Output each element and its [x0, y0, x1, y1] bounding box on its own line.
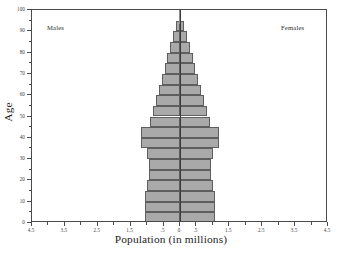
x-tick-minor	[311, 222, 312, 225]
x-tick-major	[130, 222, 131, 226]
bar-males-10-15	[145, 191, 180, 202]
bar-females-0-5	[180, 212, 215, 221]
y-tick-minor	[29, 62, 32, 63]
x-tick-major	[327, 222, 328, 226]
y-tick-major	[27, 73, 31, 74]
y-tick-label: 90	[5, 27, 25, 33]
bar-males-40-45	[141, 127, 180, 138]
y-tick-minor	[29, 169, 32, 170]
population-pyramid-chart: 4.53.52.51.5.50.51.52.53.54.5 0102030405…	[0, 0, 342, 253]
y-tick-minor	[29, 84, 32, 85]
bar-males-5-10	[145, 202, 180, 213]
y-tick-label: 10	[5, 198, 25, 204]
y-tick-minor	[29, 105, 32, 106]
y-tick-label: 30	[5, 155, 25, 161]
bar-males-50-55	[153, 106, 180, 117]
bar-females-65-70	[180, 74, 198, 85]
bar-males-55-60	[156, 95, 180, 106]
x-tick-major	[179, 222, 180, 226]
bar-males-45-50	[150, 117, 180, 128]
bar-females-80-85	[180, 42, 190, 53]
y-tick-major	[27, 116, 31, 117]
x-tick-major	[163, 222, 164, 226]
bar-females-70-75	[180, 63, 195, 74]
x-tick-major	[195, 222, 196, 226]
y-tick-label: 0	[5, 219, 25, 225]
y-tick-label: 40	[5, 134, 25, 140]
bar-females-20-25	[180, 170, 211, 181]
bar-females-75-80	[180, 53, 193, 64]
bar-males-60-65	[159, 85, 180, 96]
bar-females-25-30	[180, 159, 211, 170]
bar-females-35-40	[180, 138, 219, 149]
x-tick-minor	[80, 222, 81, 225]
bar-males-0-5	[145, 212, 180, 221]
y-tick-label: 100	[5, 6, 25, 12]
males-legend-label: Males	[47, 24, 64, 31]
y-tick-major	[27, 179, 31, 180]
bar-females-45-50	[180, 117, 210, 128]
x-axis-title: Population (in millions)	[0, 233, 342, 245]
plot-area	[31, 9, 327, 222]
y-tick-label: 80	[5, 49, 25, 55]
bar-males-80-85	[170, 42, 180, 53]
females-legend-label: Females	[281, 24, 304, 31]
bar-females-15-20	[180, 180, 213, 191]
y-tick-label: 70	[5, 70, 25, 76]
bar-males-75-80	[167, 53, 180, 64]
bar-females-55-60	[180, 95, 204, 106]
y-tick-major	[27, 137, 31, 138]
center-axis-line	[180, 10, 181, 221]
x-tick-minor	[245, 222, 246, 225]
bar-females-40-45	[180, 127, 219, 138]
bar-females-30-35	[180, 148, 213, 159]
x-tick-major	[228, 222, 229, 226]
y-axis-title: Age	[2, 92, 14, 132]
bar-males-65-70	[162, 74, 180, 85]
bar-males-85-90	[173, 31, 180, 42]
y-tick-minor	[29, 211, 32, 212]
y-tick-major	[27, 158, 31, 159]
bar-females-60-65	[180, 85, 201, 96]
x-tick-minor	[47, 222, 48, 225]
x-tick-major	[97, 222, 98, 226]
x-tick-minor	[146, 222, 147, 225]
bar-females-5-10	[180, 202, 215, 213]
x-tick-major	[64, 222, 65, 226]
bar-males-30-35	[147, 148, 180, 159]
y-tick-minor	[29, 126, 32, 127]
x-tick-minor	[278, 222, 279, 225]
plot-inner	[32, 10, 326, 221]
bar-males-35-40	[141, 138, 180, 149]
y-tick-label: 20	[5, 176, 25, 182]
y-tick-major	[27, 201, 31, 202]
bar-males-25-30	[149, 159, 180, 170]
x-tick-major	[261, 222, 262, 226]
y-tick-major	[27, 9, 31, 10]
y-tick-major	[27, 94, 31, 95]
x-tick-minor	[212, 222, 213, 225]
bar-females-50-55	[180, 106, 207, 117]
bar-males-20-25	[149, 170, 180, 181]
bar-males-15-20	[147, 180, 180, 191]
x-tick-major	[294, 222, 295, 226]
bar-males-70-75	[165, 63, 180, 74]
y-tick-minor	[29, 20, 32, 21]
y-tick-major	[27, 30, 31, 31]
bar-females-10-15	[180, 191, 215, 202]
y-tick-minor	[29, 190, 32, 191]
x-tick-major	[31, 222, 32, 226]
y-tick-major	[27, 52, 31, 53]
y-tick-major	[27, 222, 31, 223]
x-tick-minor	[113, 222, 114, 225]
y-tick-minor	[29, 41, 32, 42]
y-tick-minor	[29, 147, 32, 148]
